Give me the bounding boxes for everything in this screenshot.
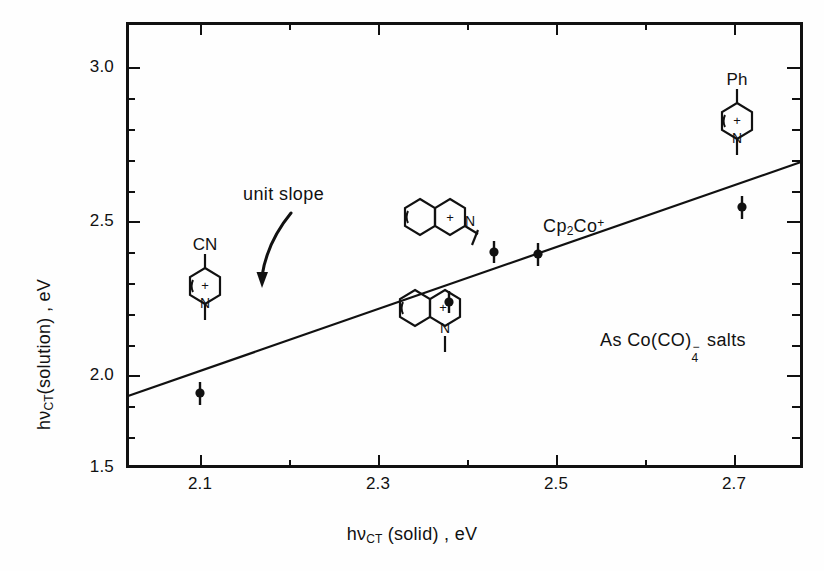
x-tick-minor-2.15 [289,460,291,468]
y-tick-right-minor-2.6 [792,191,800,193]
x-tick-top-minor-2.6 [645,22,647,30]
y-tick-right-major-3.0 [787,67,800,69]
x-axis-title: hνCT (solid) , eV [0,524,824,546]
y-tick-minor-2.2 [127,314,135,316]
y-tick-right-minor-2.2 [792,314,800,316]
plot-frame [126,22,803,468]
y-tick-right-minor-2.3 [792,283,800,285]
y-tick-right-minor-2.4 [792,252,800,254]
x-tick-label-2.5: 2.5 [526,474,586,494]
y-axis-title: hνCT(solution) , eV [34,130,56,430]
x-tick-top-minor-2.15 [289,22,291,30]
y-tick-minor-2.3 [127,283,135,285]
y-tick-minor-1.9 [127,406,135,408]
y-tick-right-major-2.0 [787,375,800,377]
y-tick-right-minor-2.1 [792,345,800,347]
y-tick-minor-2.9 [127,98,135,100]
y-tick-label-2.0: 2.0 [62,365,114,385]
x-tick-major-2.1 [200,455,202,468]
x-tick-top-major-2.5 [556,22,558,35]
y-tick-right-major-2.5 [787,221,800,223]
y-tick-right-minor-2.9 [792,98,800,100]
x-tick-top-major-2.1 [200,22,202,35]
x-axis-title-h: h [347,524,357,544]
x-tick-top-minor-2.4 [467,22,469,30]
x-axis-title-rest: (solid) , eV [382,524,477,544]
x-tick-major-2.7 [734,455,736,468]
y-tick-right-minor-2.7 [792,160,800,162]
x-tick-label-2.3: 2.3 [348,474,408,494]
salts-note-annotation: As Co(CO) 4 − salts [600,330,746,351]
y-tick-minor-2.4 [127,252,135,254]
x-tick-minor-2.6 [645,460,647,468]
cp2co-superscript: + [597,216,604,230]
figure-canvas: hνCT(solution) , eV hνCT (solid) , eV 3.… [0,0,824,571]
x-tick-label-2.1: 2.1 [170,474,230,494]
cp2co-annotation: Cp2Co+ [543,216,604,238]
y-tick-label-1.5: 1.5 [62,457,114,477]
y-tick-label-2.5: 2.5 [62,211,114,231]
y-tick-minor-2.7 [127,160,135,162]
y-tick-major-2.0 [127,375,140,377]
cp2co-subscript: 2 [567,224,574,238]
y-axis-title-nu: ν [34,410,54,419]
x-tick-label-2.7: 2.7 [704,474,764,494]
y-tick-label-3.0: 3.0 [62,57,114,77]
x-axis-title-subscript: CT [366,532,382,546]
y-tick-minor-2.8 [127,129,135,131]
y-tick-minor-2.6 [127,191,135,193]
y-axis-title-rest: (solution) , eV [34,279,54,395]
x-tick-minor-2.4 [467,460,469,468]
cp2co-cp: Cp [543,216,567,236]
x-tick-top-major-2.7 [734,22,736,35]
x-tick-major-2.5 [556,455,558,468]
y-tick-right-minor-2.8 [792,129,800,131]
y-tick-major-2.5 [127,221,140,223]
salts-suffix: salts [702,330,746,350]
x-tick-major-2.3 [378,455,380,468]
salts-superscript: − [693,340,700,354]
unit-slope-annotation: unit slope [243,184,324,205]
y-axis-title-subscript: CT [42,394,56,410]
y-tick-minor-1.8 [127,437,135,439]
cp2co-co: Co [574,216,598,236]
x-tick-top-major-2.3 [378,22,380,35]
y-axis-title-h: h [34,420,54,430]
salts-prefix: As Co(CO) [600,330,692,350]
y-tick-right-minor-1.9 [792,406,800,408]
y-tick-major-3.0 [127,67,140,69]
x-axis-title-nu: ν [357,524,366,544]
y-tick-right-minor-1.8 [792,437,800,439]
y-tick-minor-2.1 [127,345,135,347]
